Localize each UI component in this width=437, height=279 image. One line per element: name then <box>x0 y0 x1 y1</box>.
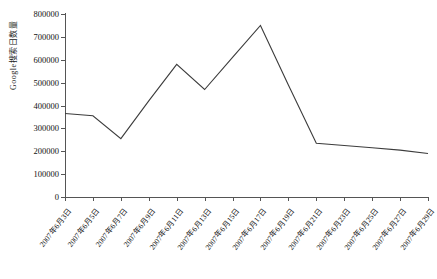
x-tick-mark <box>344 197 345 201</box>
series-line-google-search-daily-volume <box>65 14 428 197</box>
x-tick-mark <box>372 197 373 201</box>
y-tick-label: 300000 <box>34 123 60 133</box>
x-tick-mark <box>65 197 66 201</box>
x-tick-mark <box>205 197 206 201</box>
x-tick-mark <box>428 197 429 201</box>
y-tick-label: 800000 <box>34 9 60 19</box>
x-tick-mark <box>177 197 178 201</box>
x-tick-mark <box>93 197 94 201</box>
y-tick-label: 200000 <box>34 146 60 156</box>
x-tick-mark <box>233 197 234 201</box>
x-tick-mark <box>400 197 401 201</box>
x-tick-mark <box>288 197 289 201</box>
x-tick-mark <box>149 197 150 201</box>
y-tick-label: 400000 <box>34 101 60 111</box>
x-tick-mark <box>260 197 261 201</box>
y-tick-label: 500000 <box>34 78 60 88</box>
x-tick-mark <box>316 197 317 201</box>
y-tick-label: 100000 <box>34 169 60 179</box>
y-tick-label: 700000 <box>34 32 60 42</box>
y-tick-label: 0 <box>55 192 59 202</box>
y-tick-label: 600000 <box>34 55 60 65</box>
y-axis-title: Google搜索日数量 <box>7 0 18 136</box>
x-tick-mark <box>121 197 122 201</box>
x-axis-line <box>65 197 428 198</box>
plot-area: 8000007000006000005000004000003000002000… <box>65 14 428 197</box>
